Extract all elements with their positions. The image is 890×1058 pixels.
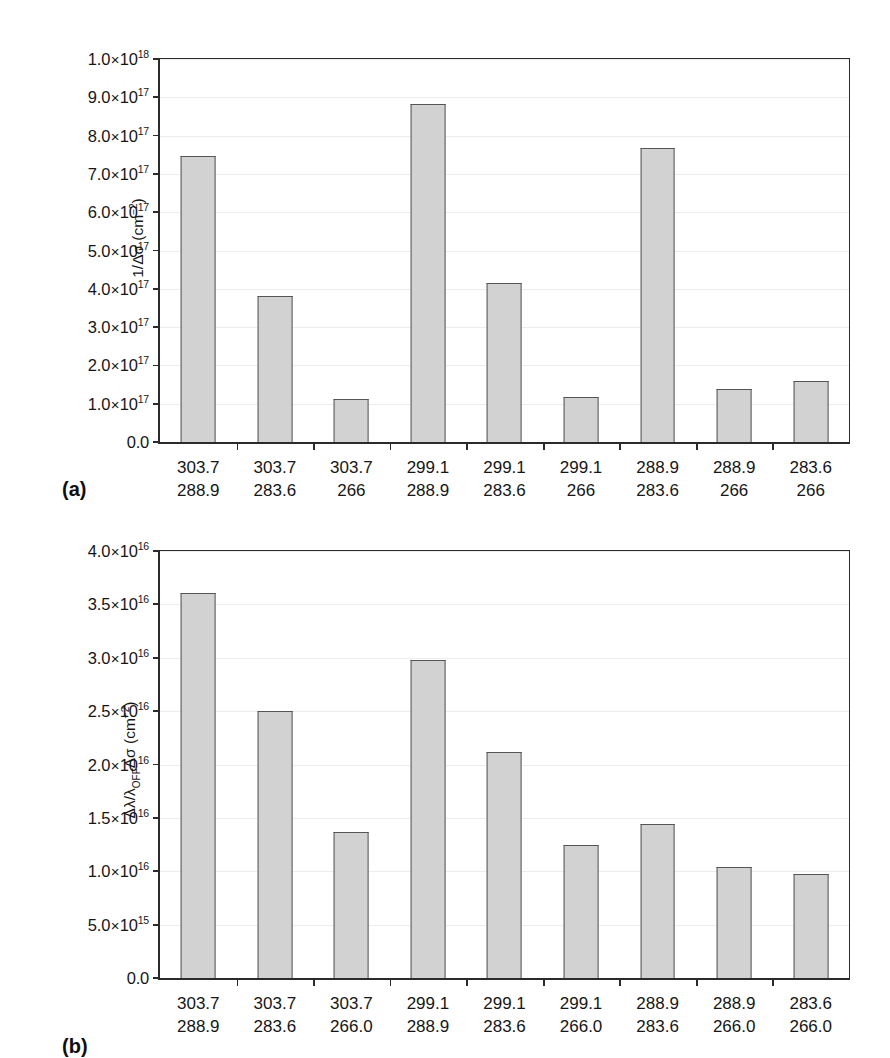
y-axis-tick-label: 3.5×1016	[88, 595, 149, 614]
x-axis-tick	[543, 978, 545, 986]
x-axis-category-label: 303.7288.9	[177, 456, 220, 503]
x-axis-tick	[466, 978, 468, 986]
x-axis-category-label: 299.1266.0	[560, 992, 603, 1039]
y-axis-tick-label: 5.0×1017	[88, 241, 149, 260]
y-axis-tick	[153, 603, 160, 605]
y-axis-tick	[153, 441, 160, 443]
y-axis-tick	[153, 250, 160, 252]
plot-area-a: 1/Δσ (cm−2) 0.01.0×10172.0×10173.0×10174…	[158, 58, 850, 444]
bar	[640, 824, 675, 978]
x-axis-category-label: 288.9266	[713, 456, 756, 503]
y-axis-tick	[153, 58, 160, 60]
bar-slot	[543, 551, 620, 978]
bar	[793, 381, 828, 442]
y-axis-tick-label: 9.0×1017	[88, 88, 149, 107]
bar-slot	[772, 551, 849, 978]
x-axis-category-label: 299.1283.6	[483, 456, 526, 503]
bar-slot	[619, 59, 696, 442]
bar-slot	[237, 59, 314, 442]
x-axis-category-label: 288.9266.0	[713, 992, 756, 1039]
x-axis-tick	[619, 978, 621, 986]
x-axis-tick	[466, 442, 468, 450]
x-axis-category-label: 299.1288.9	[407, 456, 450, 503]
y-axis-tick-label: 0.0	[127, 433, 149, 452]
bar	[717, 867, 752, 978]
y-axis-tick-label: 6.0×1017	[88, 203, 149, 222]
bar-slot	[772, 59, 849, 442]
bar-slot	[160, 551, 237, 978]
y-axis-tick	[153, 403, 160, 405]
plot-area-b: Δλ/λOFFΔσ (cm−2) 0.05.0×10151.0×10161.5×…	[158, 550, 850, 980]
bar	[487, 752, 522, 978]
y-axis-tick-label: 1.5×1016	[88, 808, 149, 827]
y-axis-tick-label: 0.0	[127, 969, 149, 988]
y-axis-tick	[153, 288, 160, 290]
y-axis-tick	[153, 326, 160, 328]
bar	[411, 660, 446, 978]
x-axis-category-label: 283.6266	[789, 456, 832, 503]
y-axis-tick-label: 3.0×1016	[88, 648, 149, 667]
y-axis-tick-label: 5.0×1015	[88, 915, 149, 934]
bar-slot	[466, 59, 543, 442]
y-axis-tick	[153, 657, 160, 659]
bar-slot	[543, 59, 620, 442]
bar-series-b	[160, 551, 849, 978]
y-axis-tick	[153, 365, 160, 367]
x-axis-category-label: 299.1266	[560, 456, 603, 503]
bar-slot	[313, 59, 390, 442]
x-axis-category-label: 303.7283.6	[254, 992, 297, 1039]
y-axis-tick	[153, 764, 160, 766]
y-axis-tick	[153, 977, 160, 979]
y-axis-tick	[153, 817, 160, 819]
bar	[564, 397, 599, 442]
bar	[334, 399, 369, 442]
x-axis-tick	[390, 978, 392, 986]
y-axis-tick-label: 2.0×1017	[88, 356, 149, 375]
y-axis-tick	[153, 173, 160, 175]
panel-letter-b: (b)	[62, 1035, 88, 1058]
y-axis-tick-label: 4.0×1017	[88, 279, 149, 298]
bar-slot	[237, 551, 314, 978]
x-axis-tick	[237, 442, 239, 450]
bar	[487, 283, 522, 442]
x-axis-tick	[696, 978, 698, 986]
bar-series-a	[160, 59, 849, 442]
y-axis-tick-label: 2.0×1016	[88, 755, 149, 774]
y-axis-tick-label: 7.0×1017	[88, 164, 149, 183]
bar-slot	[390, 59, 467, 442]
y-axis-tick-label: 3.0×1017	[88, 318, 149, 337]
y-axis-tick-label: 1.0×1018	[88, 50, 149, 69]
bar	[257, 711, 292, 978]
y-axis-tick-label: 4.0×1016	[88, 542, 149, 561]
bar-slot	[160, 59, 237, 442]
x-axis-category-label: 303.7288.9	[177, 992, 220, 1039]
bar-slot	[696, 59, 773, 442]
x-axis-category-label: 288.9283.6	[636, 992, 679, 1039]
x-axis-tick	[696, 442, 698, 450]
bar	[257, 296, 292, 442]
bar	[640, 148, 675, 442]
panel-letter-a: (a)	[62, 478, 86, 501]
y-axis-tick	[153, 924, 160, 926]
bar	[181, 156, 216, 442]
bar	[564, 845, 599, 978]
y-axis-tick	[153, 96, 160, 98]
y-axis-tick	[153, 211, 160, 213]
x-axis-tick	[390, 442, 392, 450]
bar	[334, 832, 369, 978]
panel-b: Δλ/λOFFΔσ (cm−2) 0.05.0×10151.0×10161.5×…	[0, 512, 890, 1051]
y-axis-tick	[153, 870, 160, 872]
bar	[411, 104, 446, 442]
bar	[181, 593, 216, 978]
bar-slot	[390, 551, 467, 978]
x-axis-tick	[237, 978, 239, 986]
y-axis-tick	[153, 550, 160, 552]
x-axis-tick	[543, 442, 545, 450]
x-axis-tick	[772, 978, 774, 986]
x-axis-category-label: 303.7266.0	[330, 992, 373, 1039]
x-axis-tick	[313, 442, 315, 450]
x-axis-category-label: 299.1288.9	[407, 992, 450, 1039]
y-axis-tick-label: 2.5×1016	[88, 702, 149, 721]
bar	[717, 389, 752, 442]
panel-a: 1/Δσ (cm−2) 0.01.0×10172.0×10173.0×10174…	[0, 0, 890, 520]
